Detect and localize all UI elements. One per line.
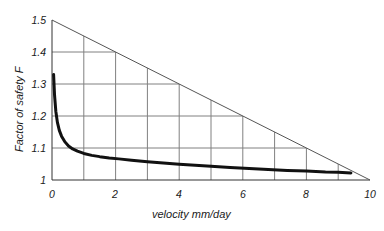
y-tick-label-1.5: 1.5 [20,15,46,26]
x-tick-label-0: 0 [40,189,64,200]
x-axis-title: velocity mm/day [152,209,231,220]
x-tick-label-6: 6 [231,189,255,200]
y-axis-title: Factor of safety F [14,66,25,152]
gridlines-vertical [84,20,370,180]
x-tick-label-8: 8 [294,189,318,200]
x-tick-label-10: 10 [358,189,382,200]
chart-figure: 1.5 1.4 1.3 1.2 1.1 1 0 2 4 6 8 10 veloc… [0,0,384,231]
y-tick-label-1: 1 [20,175,46,186]
y-tick-label-1.4: 1.4 [20,47,46,58]
x-tick-label-4: 4 [167,189,191,200]
x-tick-label-2: 2 [103,189,127,200]
